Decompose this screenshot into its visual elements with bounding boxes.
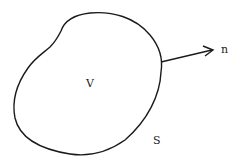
normal-label: n — [221, 43, 228, 56]
diagram-canvas: V S n — [0, 0, 242, 164]
volume-label: V — [85, 77, 95, 90]
surface-label: S — [153, 134, 161, 147]
normal-vector-arrow — [161, 46, 213, 62]
